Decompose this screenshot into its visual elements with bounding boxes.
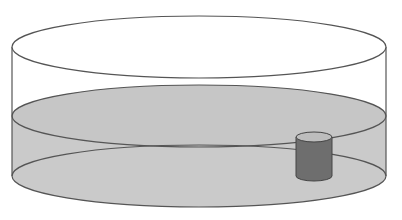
container-rim [12,16,386,78]
small-cylinder-body [296,137,332,181]
small-cylinder-top [296,132,332,142]
container-diagram [0,0,402,220]
small-cylinder-object [296,132,332,181]
